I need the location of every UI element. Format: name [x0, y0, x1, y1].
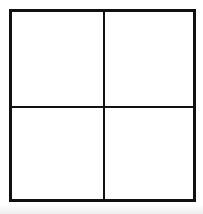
quadrant-grid-figure [0, 0, 203, 214]
quadrant-cell-bottom-left-label [12, 108, 103, 199]
quadrant-cell-top-right-label [105, 12, 193, 106]
quadrant-cell-top-left-label [12, 12, 103, 106]
quadrant-cell-bottom-right[interactable] [105, 108, 193, 199]
quadrant-cell-bottom-left[interactable] [12, 108, 103, 199]
quadrant-cell-top-left[interactable] [12, 12, 103, 106]
quadrant-cell-bottom-right-label [105, 108, 193, 199]
quadrant-cell-top-right[interactable] [105, 12, 193, 106]
scan-noise-band [0, 205, 203, 214]
